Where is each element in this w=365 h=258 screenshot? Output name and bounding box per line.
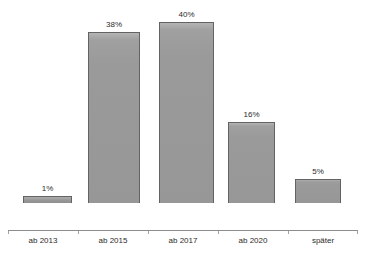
plot-area: 1% 38% 40% 16% 5% bbox=[0, 0, 365, 231]
axis-tick bbox=[218, 231, 219, 234]
bar-group: 40% bbox=[159, 22, 214, 203]
category-axis-labels: ab 2013 ab 2015 ab 2017 ab 2020 später bbox=[0, 235, 365, 249]
bars-layer: 1% 38% 40% 16% 5% bbox=[0, 0, 365, 231]
category-label: ab 2017 bbox=[148, 235, 218, 247]
bar-value-label: 38% bbox=[88, 20, 140, 30]
bar[interactable] bbox=[159, 22, 214, 203]
category-label: ab 2020 bbox=[218, 235, 288, 247]
category-label: später bbox=[288, 235, 358, 247]
bar-chart: 1% 38% 40% 16% 5% bbox=[0, 0, 365, 258]
category-label: ab 2015 bbox=[78, 235, 148, 247]
axis-tick bbox=[78, 231, 79, 234]
bar-value-label: 40% bbox=[159, 10, 214, 20]
bar-group: 16% bbox=[228, 122, 275, 203]
axis-tick bbox=[288, 231, 289, 234]
bar[interactable] bbox=[228, 122, 275, 203]
bar[interactable] bbox=[88, 32, 140, 203]
axis-tick bbox=[357, 231, 358, 234]
bar[interactable] bbox=[295, 179, 341, 203]
bar-group: 5% bbox=[295, 179, 341, 203]
bar-group: 38% bbox=[88, 32, 140, 203]
bar[interactable] bbox=[23, 196, 72, 203]
category-axis-line bbox=[8, 230, 358, 231]
bar-value-label: 1% bbox=[23, 184, 72, 194]
axis-tick bbox=[148, 231, 149, 234]
bar-value-label: 5% bbox=[295, 167, 341, 177]
bar-group: 1% bbox=[23, 196, 72, 203]
category-label: ab 2013 bbox=[8, 235, 78, 247]
axis-tick bbox=[8, 231, 9, 234]
bar-value-label: 16% bbox=[228, 110, 275, 120]
